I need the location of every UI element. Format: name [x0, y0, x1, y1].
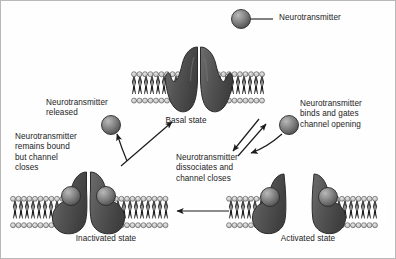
- state-label-activated: Activated state: [248, 234, 368, 244]
- state-label-inactivated: Inactivated state: [46, 234, 166, 244]
- arrow-inactivated-to-basal: [121, 122, 172, 166]
- bound-neurotransmitter-inactivated-right: [97, 187, 116, 206]
- legend-label: Neurotransmitter: [279, 13, 341, 23]
- arrow-neurotransmitter-binding: [251, 134, 282, 153]
- membrane-activated: [226, 196, 386, 227]
- annotation-released: Neurotransmitter released: [46, 98, 142, 119]
- annotation-dissociates: Neurotransmitter dissociates and channel…: [176, 153, 276, 184]
- membrane-basal: [131, 72, 267, 103]
- bound-neurotransmitter-inactivated-left: [62, 187, 81, 206]
- annotation-binds-and-gates: Neurotransmitter binds and gates channel…: [300, 99, 395, 130]
- bound-neurotransmitter-activated-left: [261, 188, 280, 207]
- arrow-neurotransmitter-release: [117, 134, 127, 161]
- state-label-basal: Basal state: [147, 116, 225, 126]
- free-neurotransmitter-incoming: [280, 116, 299, 135]
- receptor-inactivated: [52, 172, 124, 234]
- bound-neurotransmitter-activated-right: [319, 188, 338, 207]
- figure-panel: Neurotransmitter Basal state Inactivated…: [0, 0, 396, 259]
- legend-neurotransmitter-icon: [232, 10, 251, 29]
- annotation-remains-bound: Neurotransmitter remains bound but chann…: [15, 132, 113, 174]
